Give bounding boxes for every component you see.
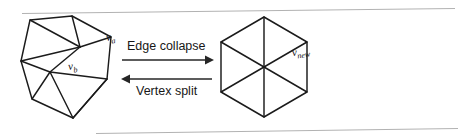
vertex-label-vnew: vnew — [266, 40, 329, 65]
post-collapse-mesh: vnew — [221, 17, 330, 117]
left-edge-sw-vb — [32, 72, 50, 99]
edge-collapse-arrow — [122, 56, 214, 65]
vertex-split-arrow — [121, 75, 212, 84]
left-edge-n-va — [72, 16, 80, 47]
edge-collapse-arrow-head — [205, 56, 214, 65]
top-rule — [22, 9, 455, 14]
pre-collapse-mesh: va vb — [21, 16, 135, 118]
edge-collapse-label: Edge collapse — [127, 39, 206, 53]
right-spoke-se — [264, 67, 307, 92]
vertex-split-arrow-head — [121, 75, 130, 84]
left-edge-nw-va — [30, 20, 80, 47]
vertex-split-label: Vertex split — [136, 84, 198, 98]
left-edge-s-vb — [50, 72, 73, 118]
transform-arrows: Edge collapse Vertex split — [121, 39, 214, 98]
right-spoke-nw — [221, 42, 264, 67]
bottom-rule — [96, 129, 458, 134]
left-edge-s-se — [73, 79, 107, 118]
figure-canvas: va vb Edge collapse Vertex split — [0, 0, 472, 137]
right-spoke-sw — [221, 67, 264, 92]
diagram-svg: va vb Edge collapse Vertex split — [0, 0, 472, 137]
